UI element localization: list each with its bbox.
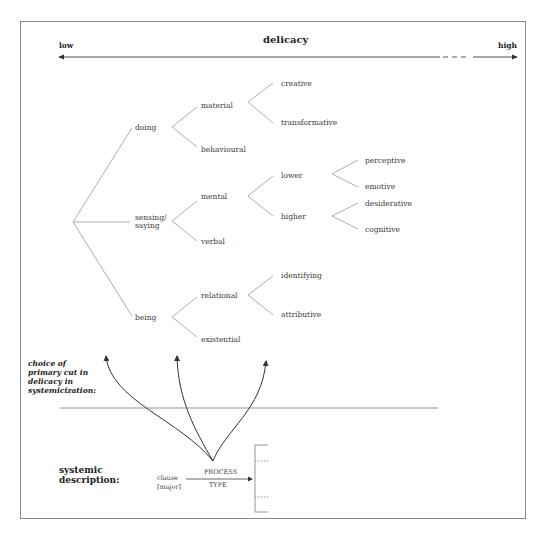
- low-label: low: [59, 41, 73, 50]
- node-desiderative: desiderative: [365, 199, 412, 208]
- node-verbal: verbal: [201, 237, 225, 246]
- delicacy-axis: [58, 55, 518, 60]
- node-higher: higher: [281, 212, 306, 221]
- primary-cut-arrows: [106, 356, 266, 461]
- note-line-1: choice of: [28, 359, 96, 368]
- node-sensing-line2: saying: [135, 221, 160, 230]
- node-relational: relational: [201, 291, 238, 300]
- axis-title: delicacy: [263, 34, 308, 45]
- high-label: high: [498, 41, 517, 50]
- node-material: material: [201, 101, 233, 110]
- node-creative: creative: [281, 79, 312, 88]
- system-name-process: PROCESS: [204, 468, 237, 476]
- node-perceptive: perceptive: [365, 156, 405, 165]
- node-cognitive: cognitive: [365, 225, 400, 234]
- node-identifying: identifying: [281, 271, 322, 280]
- systemic-heading-line-2: description:: [59, 475, 119, 485]
- node-attributive: attributive: [281, 310, 321, 319]
- node-mental: mental: [201, 192, 227, 201]
- node-transformative: transformative: [281, 118, 337, 127]
- note-line-2: primary cut in: [28, 368, 96, 377]
- node-behavioural: behavioural: [201, 145, 246, 154]
- node-existential: existential: [201, 335, 240, 344]
- node-lower: lower: [281, 171, 302, 180]
- system-bracket: [255, 445, 268, 512]
- note-line-3: delicacy in: [28, 377, 96, 386]
- node-emotive: emotive: [365, 182, 395, 191]
- systemic-description-heading: systemic description:: [59, 465, 119, 485]
- note-line-4: systemicization:: [28, 386, 96, 395]
- arrow-left-icon: [58, 55, 64, 60]
- arrow-right-icon: [512, 55, 518, 60]
- node-being: being: [135, 313, 156, 322]
- systemic-heading-line-1: systemic: [59, 465, 119, 475]
- entry-condition-major: [major]: [157, 483, 181, 491]
- primary-cut-note: choice of primary cut in delicacy in sys…: [28, 359, 96, 395]
- diagram-lines: [0, 0, 542, 535]
- entry-condition-clause: clause: [157, 474, 178, 482]
- system-name-type: TYPE: [209, 481, 227, 489]
- node-doing: doing: [135, 123, 156, 132]
